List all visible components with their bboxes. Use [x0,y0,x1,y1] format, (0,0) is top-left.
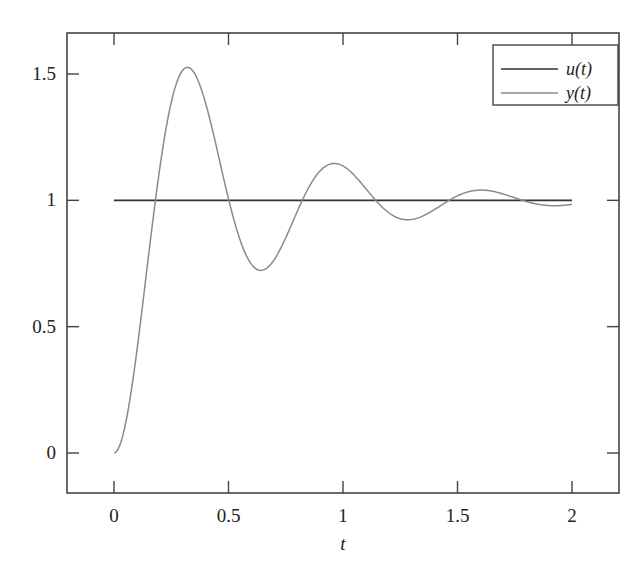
x-axis-label: t [340,533,346,554]
x-tick-label: 0.5 [217,505,241,526]
legend-label-u: u(t) [566,59,592,80]
x-tick-label: 0 [109,505,119,526]
y-tick-label: 0.5 [32,316,56,337]
legend: u(t) y(t) [493,45,618,105]
y-tick-label: 0 [47,442,57,463]
x-tick-label: 1 [338,505,348,526]
x-tick-label: 2 [567,505,577,526]
legend-label-y: y(t) [564,83,591,104]
y-tick-label: 1.5 [32,63,56,84]
y-tick-label: 1 [47,189,57,210]
series-layer [114,67,572,453]
step-response-chart: 00.511.5200.511.5 t u(t) y(t) [0,0,642,577]
legend-box [493,45,618,105]
tick-labels: 00.511.5200.511.5 [32,63,577,526]
series-y-line [114,67,572,453]
x-tick-label: 1.5 [446,505,470,526]
